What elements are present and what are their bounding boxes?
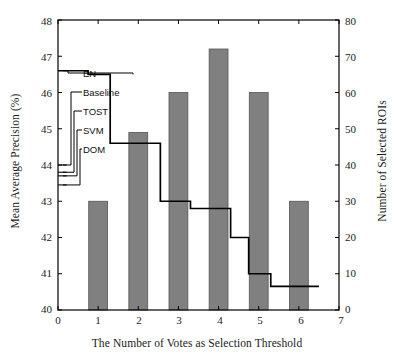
bar-6 bbox=[289, 201, 308, 310]
leader-dom bbox=[63, 149, 82, 185]
bar-5 bbox=[249, 93, 268, 311]
legend-leader-lines bbox=[63, 71, 133, 185]
leader-baseline bbox=[63, 92, 82, 165]
bar-1 bbox=[89, 201, 108, 310]
bar-2 bbox=[129, 132, 148, 310]
bar-series bbox=[89, 49, 309, 310]
bar-4 bbox=[209, 49, 228, 310]
leader-svm bbox=[63, 130, 82, 176]
chart-figure: Mean Average Precision (%) Number of Sel… bbox=[0, 0, 394, 362]
leader-tost bbox=[63, 111, 82, 172]
plot-area bbox=[0, 0, 394, 362]
